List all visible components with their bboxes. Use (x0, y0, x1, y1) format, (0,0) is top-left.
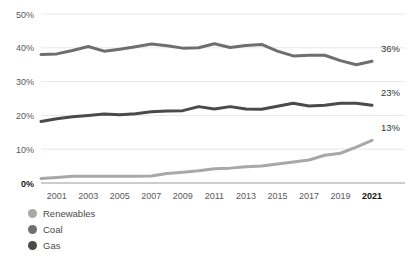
y-axis-tick-label: 20% (16, 111, 34, 121)
x-axis-tick-label: 2017 (299, 191, 319, 201)
gridlines (41, 14, 405, 183)
legend-item-renewables[interactable]: Renewables (28, 207, 95, 220)
y-axis-tick-label: 40% (16, 43, 34, 53)
end-label-coal: 36% (381, 43, 401, 54)
series-lines (41, 44, 372, 179)
end-label-gas: 23% (381, 87, 401, 98)
x-axis-tick-label: 2013 (236, 191, 256, 201)
x-axis-tick-label: 2005 (110, 191, 130, 201)
legend-item-label: Coal (43, 223, 63, 236)
y-axis-tick-labels: 0%10%20%30%40%50% (16, 10, 34, 189)
x-axis-tick-label: 2007 (141, 191, 161, 201)
x-axis-tick-label: 2015 (267, 191, 287, 201)
y-axis-tick-label: 0% (21, 179, 34, 189)
x-axis-tick-label: 2021 (362, 191, 382, 201)
series-line-coal (41, 44, 372, 65)
legend-item-gas[interactable]: Gas (28, 239, 95, 252)
legend-item-label: Renewables (43, 207, 95, 220)
chart-legend: RenewablesCoalGas (28, 207, 95, 252)
x-axis-tick-labels: 2001200320052007200920112013201520172019… (47, 191, 382, 201)
series-line-gas (41, 103, 372, 121)
x-axis-tick-label: 2011 (205, 191, 224, 201)
legend-item-label: Gas (43, 239, 60, 252)
x-axis-tick-label: 2009 (173, 191, 193, 201)
x-axis-tick-label: 2019 (330, 191, 350, 201)
x-axis-tick-label: 2003 (78, 191, 98, 201)
y-axis-tick-label: 30% (16, 77, 34, 87)
series-line-renewables (41, 140, 372, 178)
legend-item-coal[interactable]: Coal (28, 223, 95, 236)
legend-swatch-icon (28, 209, 37, 218)
legend-swatch-icon (28, 241, 37, 250)
y-axis-tick-label: 50% (16, 10, 34, 20)
chart-container: 0%10%20%30%40%50% 2001200320052007200920… (0, 0, 409, 265)
y-axis-tick-label: 10% (16, 145, 34, 155)
x-axis-tick-label: 2001 (47, 191, 67, 201)
series-end-labels: 36%23%13% (381, 43, 401, 133)
legend-swatch-icon (28, 225, 37, 234)
end-label-renewables: 13% (381, 122, 401, 133)
